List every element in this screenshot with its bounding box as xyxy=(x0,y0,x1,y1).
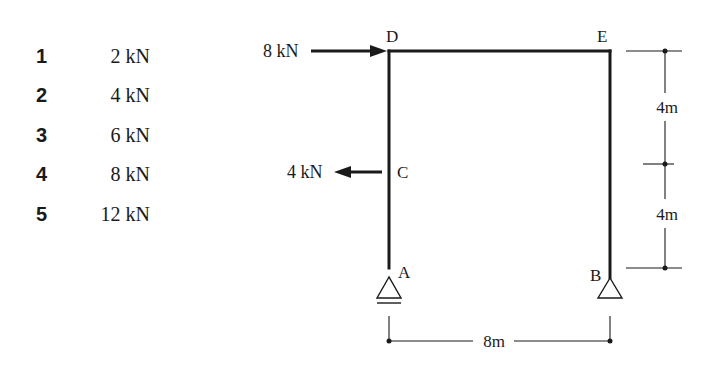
option-value: 8 kN xyxy=(111,163,150,185)
load-label-middle: 4 kN xyxy=(287,162,323,182)
option-number: 5 xyxy=(36,203,47,225)
frame-members xyxy=(389,51,610,278)
dimension-label-upper: 4m xyxy=(656,98,678,117)
option-value: 6 kN xyxy=(111,124,150,146)
node-label-e: E xyxy=(597,27,607,46)
option-value: 12 kN xyxy=(101,203,150,225)
load-4kn-at-c: 4 kN xyxy=(287,162,382,182)
option-number: 1 xyxy=(36,45,47,67)
dimension-height xyxy=(626,49,682,271)
frame-diagram: 1 2 kN 2 4 kN 3 6 kN 4 8 kN 5 12 kN xyxy=(0,0,714,370)
node-label-a: A xyxy=(398,263,411,282)
structural-frame-problem: 1 2 kN 2 4 kN 3 6 kN 4 8 kN 5 12 kN xyxy=(0,0,714,370)
node-label-b: B xyxy=(590,266,601,285)
dimension-dot-icon xyxy=(608,339,613,344)
load-8kn-at-d: 8 kN xyxy=(263,41,387,61)
option-2[interactable]: 2 4 kN xyxy=(36,84,150,106)
arrow-right-icon xyxy=(370,45,387,57)
option-value: 4 kN xyxy=(111,84,150,106)
option-number: 2 xyxy=(36,84,47,106)
answer-options: 1 2 kN 2 4 kN 3 6 kN 4 8 kN 5 12 kN xyxy=(36,45,150,225)
support-b-pin xyxy=(598,278,622,298)
option-value: 2 kN xyxy=(111,45,150,67)
node-label-c: C xyxy=(397,163,408,182)
dimension-dot-icon xyxy=(663,266,668,271)
dimension-dot-icon xyxy=(387,339,392,344)
option-4[interactable]: 4 8 kN xyxy=(36,163,150,185)
arrow-left-icon xyxy=(334,166,351,178)
triangle-support-icon xyxy=(598,278,622,298)
option-5[interactable]: 5 12 kN xyxy=(36,203,150,225)
option-3[interactable]: 3 6 kN xyxy=(36,124,150,146)
option-1[interactable]: 1 2 kN xyxy=(36,45,150,67)
load-label-top: 8 kN xyxy=(263,41,299,61)
node-label-d: D xyxy=(386,27,398,46)
dimension-dot-icon xyxy=(663,49,668,54)
option-number: 4 xyxy=(36,163,48,185)
node-labels: D E C A B xyxy=(386,27,607,285)
dimension-dot-icon xyxy=(663,162,668,167)
option-number: 3 xyxy=(36,124,47,146)
dimension-label-lower: 4m xyxy=(656,205,678,224)
dimension-label-span: 8m xyxy=(483,332,505,351)
